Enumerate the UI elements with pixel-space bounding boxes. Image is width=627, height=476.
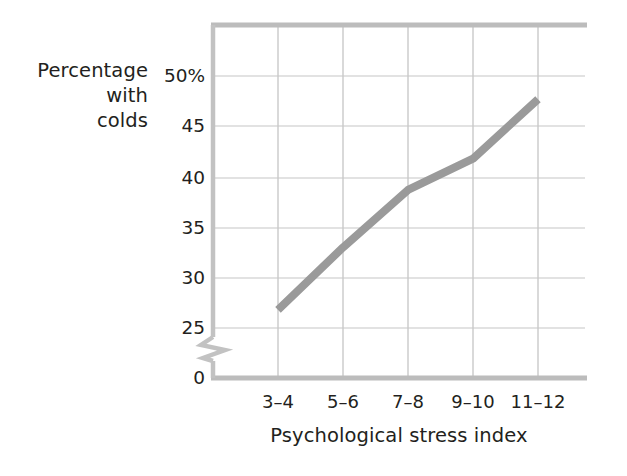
x-axis-title: Psychological stress index [213, 424, 585, 448]
chart-figure: Percentage with colds 50% 45 40 35 30 25… [0, 0, 627, 476]
x-tick-label-11-12: 11–12 [498, 392, 578, 412]
x-axis-tick-labels: 3–4 5–6 7–8 9–10 11–12 [0, 0, 627, 476]
